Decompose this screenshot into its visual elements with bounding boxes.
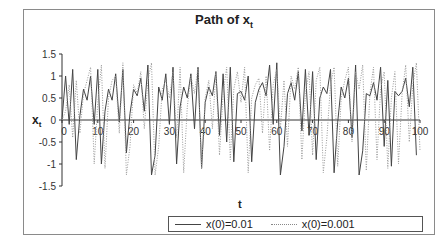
x-tick-label: 0	[61, 126, 67, 137]
legend-item-dotted: x(0)=0.001	[271, 218, 355, 230]
legend-label: x(0)=0.001	[302, 218, 355, 230]
x-tick-label: 30	[164, 126, 176, 137]
legend-label: x(0)=0.01	[206, 218, 253, 230]
legend-item-solid: x(0)=0.01	[175, 218, 253, 230]
y-tick-label: 1.5	[42, 49, 56, 60]
legend: x(0)=0.01 x(0)=0.001	[168, 216, 423, 232]
plot-area: 1.510.50-0.5-1-1.50102030405060708090100	[0, 0, 448, 248]
y-tick-label: -0.5	[39, 137, 57, 148]
y-tick-label: 0	[50, 115, 56, 126]
y-tick-label: -1	[47, 159, 56, 170]
y-tick-label: 1	[50, 71, 56, 82]
x-tick-label: 60	[271, 126, 283, 137]
x-tick-label: 50	[235, 126, 247, 137]
x-tick-label: 20	[128, 126, 140, 137]
solid-line-swatch-icon	[175, 224, 201, 225]
x-tick-label: 100	[412, 126, 429, 137]
x-tick-label: 10	[92, 126, 104, 137]
dotted-line-swatch-icon	[271, 224, 297, 225]
y-tick-label: 0.5	[42, 93, 56, 104]
y-tick-label: -1.5	[39, 181, 57, 192]
x-tick-label: 40	[200, 126, 212, 137]
